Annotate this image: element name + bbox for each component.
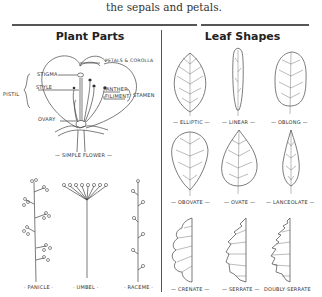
leaf-obovate: — OBOVATE — — [171, 132, 210, 205]
raceme-caption: · RACEME · — [124, 284, 153, 290]
leaf-linear: — LINEAR — — [222, 48, 255, 125]
leaf-ovate: — OVATE — — [222, 130, 257, 205]
pistil-brace — [24, 74, 30, 108]
illustration-canvas: STIGMA STYLE OVARY PISTIL PETALS & COROL… — [0, 0, 322, 297]
label-ovary: OVARY — [38, 116, 56, 122]
ovate-caption: — OVATE — — [224, 199, 255, 205]
panicle-diagram: · PANICLE · — [23, 179, 54, 291]
crenate-caption: — CRENATE — — [171, 286, 210, 292]
elliptic-caption: — ELLIPTIC — — [173, 119, 210, 125]
umbel-caption: · UMBEL · — [73, 284, 99, 290]
label-stigma: STIGMA — [37, 71, 58, 77]
flower-caption: — SIMPLE FLOWER — — [55, 152, 112, 158]
simple-flower-diagram: STIGMA STYLE OVARY PISTIL PETALS & COROL… — [3, 56, 155, 158]
oblong-caption: — OBLONG — — [271, 119, 308, 125]
doubly-serrate-caption: DOUBLY·SERRATE — [264, 286, 311, 292]
leaf-doubly-serrate: DOUBLY·SERRATE — [264, 218, 311, 292]
anther — [88, 78, 91, 81]
stem — [77, 130, 78, 152]
label-pistil: PISTIL — [3, 91, 19, 97]
leaf-oblong: — OBLONG — — [271, 52, 308, 125]
obovate-caption: — OBOVATE — — [171, 199, 210, 205]
leaf-serrate: — SERRATE — — [222, 218, 260, 292]
stigma — [78, 73, 84, 77]
label-petals: PETALS & COROLLA — [105, 58, 154, 63]
leaf-elliptic: — ELLIPTIC — — [173, 53, 210, 125]
label-anther: ANTHER — [106, 86, 128, 92]
linear-caption: — LINEAR — — [222, 119, 255, 125]
umbel-diagram: · UMBEL · — [62, 183, 107, 290]
panicle-caption: · PANICLE · — [24, 284, 54, 290]
raceme-diagram: · RACEME · — [124, 180, 153, 291]
label-stamen: STAMEN — [133, 92, 155, 98]
leaf-crenate: — CRENATE — — [171, 218, 210, 292]
label-style: STYLE — [36, 84, 52, 90]
label-filament: FILIMENT — [105, 93, 130, 99]
leaf-lanceolate: — LANCEOLATE — — [266, 130, 315, 205]
serrate-caption: — SERRATE — — [222, 286, 260, 292]
lanceolate-caption: — LANCEOLATE — — [266, 199, 315, 205]
